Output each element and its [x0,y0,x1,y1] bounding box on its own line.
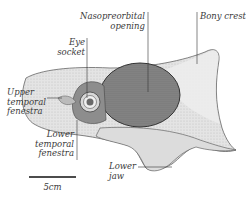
scale-bar-label: 5cm [29,183,76,193]
label-eye-socket: Eye socket [57,38,85,57]
label-lower-jaw: Lower jaw [109,162,136,181]
label-lower-temporal-fenestra: Lower temporal fenestra [35,130,74,159]
label-nasopreorbital-opening: Nasopreorbital opening [80,12,145,31]
nasopreorbital-opening-shape [100,63,180,127]
label-bony-crest: Bony crest [200,12,246,22]
skull-diagram: Nasopreorbital opening Bony crest Eye so… [0,0,246,202]
label-upper-temporal-fenestra: Upper temporal fenestra [7,88,46,117]
